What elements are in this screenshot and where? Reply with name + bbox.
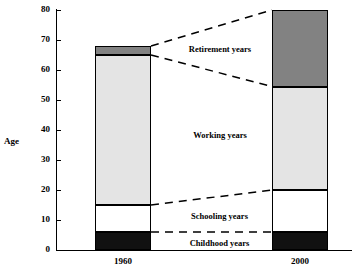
y-tick-40 [57, 130, 61, 131]
leader-retirement-bottom [151, 55, 272, 87]
y-tick-label-70: 70 [28, 35, 50, 44]
segment-2000-childhood [272, 232, 328, 250]
y-tick-10 [57, 220, 61, 221]
y-tick-label-30: 30 [28, 155, 50, 164]
y-tick-label-80: 80 [28, 5, 50, 14]
y-tick-30 [57, 160, 61, 161]
label-childhood-years: Childhood years [172, 238, 267, 248]
label-working-years: Working years [175, 130, 265, 140]
y-tick-label-0: 0 [28, 245, 50, 254]
segment-2000-working [272, 87, 328, 191]
leader-working-bottom [151, 190, 272, 205]
y-tick-label-60: 60 [28, 65, 50, 74]
leader-retirement-top [151, 10, 272, 46]
y-tick-80 [57, 10, 61, 11]
x-axis-label-1960: 1960 [93, 256, 153, 266]
y-tick-70 [57, 40, 61, 41]
bar-2000 [272, 10, 328, 250]
y-tick-50 [57, 100, 61, 101]
segment-2000-retirement [272, 10, 328, 87]
y-tick-label-10: 10 [28, 215, 50, 224]
age-structure-stacked-bar-chart: 80 70 60 50 40 30 20 10 0 Age Retirement… [0, 0, 354, 271]
y-tick-label-40: 40 [28, 125, 50, 134]
y-axis-title: Age [4, 136, 19, 146]
segment-1960-working [95, 55, 151, 205]
segment-1960-childhood [95, 232, 151, 250]
x-axis-label-2000: 2000 [270, 256, 330, 266]
label-retirement-years: Retirement years [175, 44, 265, 54]
bar-1960 [95, 46, 151, 250]
y-tick-label-50: 50 [28, 95, 50, 104]
y-tick-label-20: 20 [28, 185, 50, 194]
segment-1960-schooling [95, 205, 151, 232]
x-axis-line [56, 250, 352, 251]
segment-1960-retirement [95, 46, 151, 55]
y-tick-20 [57, 190, 61, 191]
y-tick-60 [57, 70, 61, 71]
segment-2000-schooling [272, 190, 328, 232]
label-schooling-years: Schooling years [172, 211, 267, 221]
